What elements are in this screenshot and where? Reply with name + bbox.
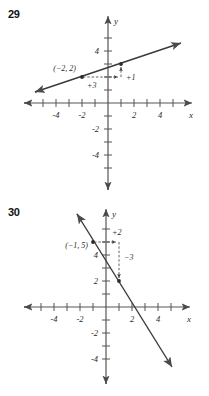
x-tick-label--4: -4 [52,110,60,120]
data-point-1-2 [117,279,121,283]
x-tick-label-2: 2 [130,314,135,324]
y-tick-label-4: 4 [94,250,99,260]
y-axis-name: y [113,16,118,26]
y-tick-label--4: -4 [91,354,99,364]
data-point-1-3 [119,62,123,66]
rise-annotation-29: +1 [121,67,135,82]
y-tick-label--4: -4 [92,150,100,160]
run-label: +3 [87,81,96,90]
line-arrow-left [35,90,41,92]
x-axis-30: -4 -2 2 4 x [24,303,191,324]
x-tick-label-4: 4 [158,110,163,120]
rise-label: −3 [124,253,133,262]
graph-29: -4 -2 2 4 x 4 -2 -4 [0,0,209,198]
rise-annotation-30: −3 [119,242,133,278]
x-axis-name: x [188,110,193,120]
y-tick-label--2: -2 [92,124,100,134]
x-tick-label-4: 4 [156,314,161,324]
x-tick-label--2: -2 [76,314,84,324]
x-axis-name: x [186,314,191,324]
graph-30: -4 -2 2 4 x 4 2 -2 [0,198,209,396]
x-tick-label--4: -4 [50,314,58,324]
problem-30: 30 -4 [0,198,209,396]
y-axis-name: y [111,209,116,219]
y-tick-label-4: 4 [95,46,100,56]
y-tick-label--2: -2 [91,328,99,338]
plotted-line-30 [77,214,172,367]
point-label--2-2: (−2, 2) [53,64,76,73]
point-label--1-5: (−1, 5) [65,241,88,250]
run-annotation-29: +3 [83,77,118,90]
run-label: +2 [112,228,121,237]
y-tick-label-2: 2 [94,276,99,286]
x-tick-label--2: -2 [78,110,86,120]
problem-29: 29 [0,0,209,198]
line-arrow-up-left [77,214,81,220]
run-annotation-30: +2 [94,228,121,242]
rise-label: +1 [126,73,135,82]
x-tick-label-2: 2 [132,110,137,120]
line-arrow-down-right [77,214,172,367]
